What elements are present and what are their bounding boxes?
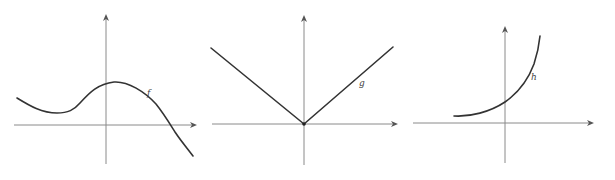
label-h: h [531, 72, 537, 82]
function-graphs-figure: f g h [0, 0, 615, 180]
graph-g: g [211, 15, 398, 165]
vertex-point [302, 122, 306, 126]
label-g: g [359, 78, 365, 88]
label-f: f [146, 88, 152, 98]
graph-f: f [14, 14, 197, 164]
curve-g [211, 47, 393, 124]
graph-h: h [413, 26, 594, 163]
curve-f [17, 82, 193, 156]
curve-h [454, 36, 540, 116]
